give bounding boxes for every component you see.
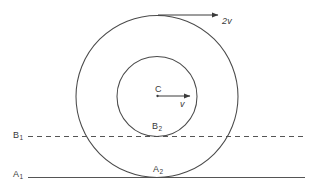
label-b1: B1 <box>13 130 23 140</box>
physics-figure: B1 A1 B2 A2 C v 2v <box>0 0 319 191</box>
label-a2-subscript: 2 <box>159 168 163 175</box>
label-b2: B2 <box>152 121 162 131</box>
label-velocity-v: v <box>180 99 185 109</box>
label-center-c: C <box>155 84 162 94</box>
label-a1: A1 <box>13 169 23 179</box>
diagram-canvas <box>0 0 319 191</box>
label-a2: A2 <box>153 164 163 174</box>
label-b1-subscript: 1 <box>19 134 23 141</box>
label-a1-subscript: 1 <box>19 173 23 180</box>
label-velocity-2v: 2v <box>222 16 232 26</box>
label-b2-subscript: 2 <box>158 125 162 132</box>
